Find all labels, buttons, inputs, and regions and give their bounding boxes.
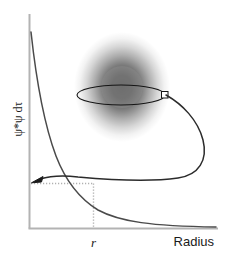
atom-illustration [74, 32, 170, 142]
figure-container: Radius r ψ*ψ dτ [0, 0, 226, 259]
nucleus-disc [101, 66, 143, 108]
y-axis-label: ψ*ψ dτ [11, 101, 25, 136]
x-axis-label: Radius [174, 234, 215, 249]
probability-density-figure: Radius r ψ*ψ dτ [0, 0, 226, 259]
